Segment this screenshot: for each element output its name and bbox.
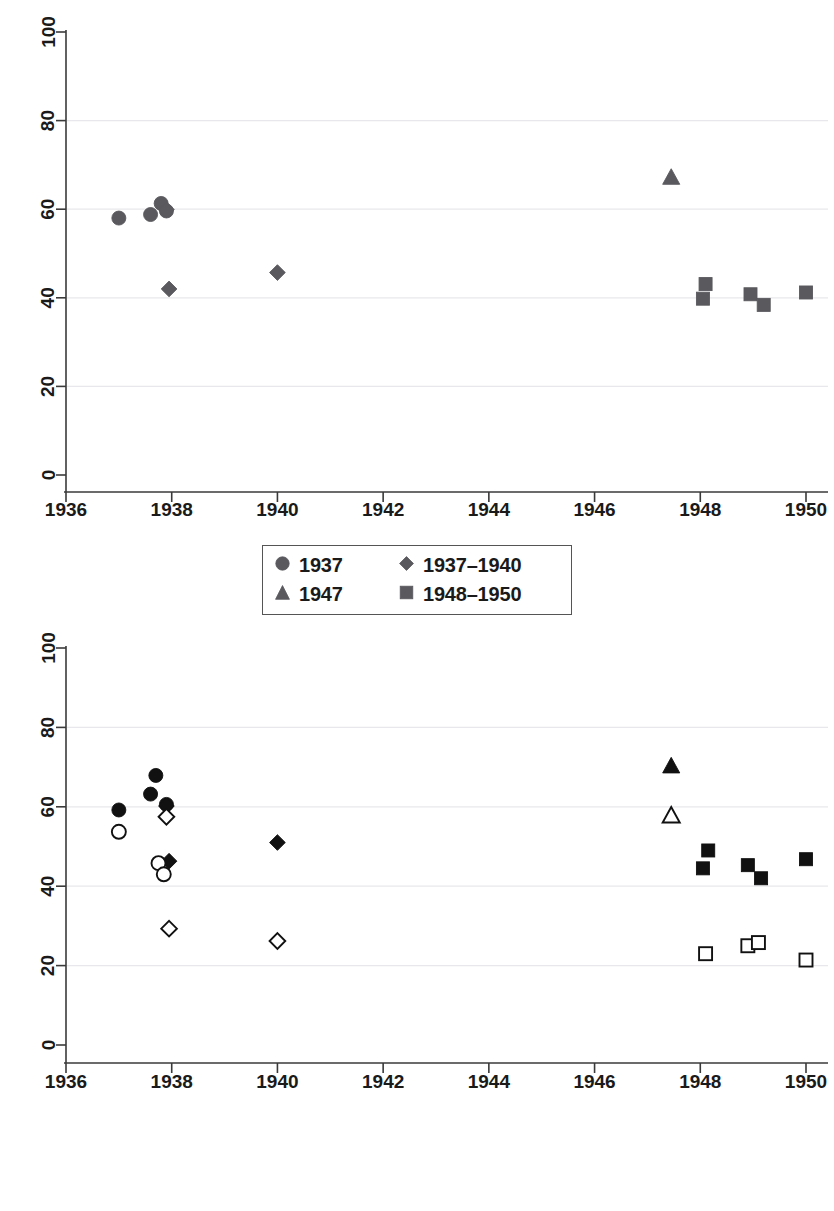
y-tick-label: 80 [38,717,59,738]
x-tick-label: 1946 [573,1071,615,1092]
legend-entry: 1947 [275,584,393,605]
data-point-marker [144,208,158,222]
x-axis: 19361938194019421944194619481950 [45,492,828,520]
data-point-marker [752,936,765,949]
data-point-marker [161,921,177,937]
legend-entry: 1948–1950 [399,584,561,605]
legend-entry-label: 1937 [299,555,343,576]
y-tick-label: 60 [38,199,59,220]
data-point-marker [663,757,680,773]
data-point-marker [800,286,813,299]
y-tick-label: 40 [38,876,59,897]
square-solid-marker-icon [399,585,414,604]
data-point-marker [744,288,757,301]
x-tick-label: 1948 [679,1071,721,1092]
data-point-marker [702,844,715,857]
series-south-1937 [112,825,171,881]
series-1947 [663,169,680,185]
diamond-solid-marker-icon [399,556,414,575]
data-point-marker [800,954,813,967]
x-tick-label: 1936 [45,499,87,520]
y-axis: 020406080100 [38,16,67,492]
data-point-marker [112,211,126,225]
data-point-marker [696,862,709,875]
y-tick-label: 60 [38,796,59,817]
x-tick-label: 1948 [679,499,721,520]
chart-panel-top: 0204060801001936193819401942194419461948… [0,0,834,620]
data-point-marker [144,787,158,801]
x-tick-label: 1950 [785,499,827,520]
y-tick-label: 20 [38,955,59,976]
data-point-marker [270,265,286,281]
data-point-marker [270,933,286,949]
data-point-marker [112,825,126,839]
x-axis: 19361938194019421944194619481950 [45,1063,828,1092]
data-point-marker [755,872,768,885]
series-1948-1950 [696,278,812,312]
data-point-marker [699,947,712,960]
data-point-marker [161,281,177,297]
x-tick-label: 1940 [256,1071,298,1092]
data-point-marker [741,859,754,872]
x-tick-label: 1950 [785,1071,827,1092]
series-non-south-1947 [663,757,680,773]
data-point-marker [112,803,126,817]
y-tick-label: 100 [38,632,59,664]
data-point-marker [663,169,680,185]
x-tick-label: 1944 [468,1071,511,1092]
x-tick-label: 1944 [468,499,511,520]
data-point-marker [800,853,813,866]
y-tick-label: 100 [38,16,59,48]
circle-solid-marker-icon [275,556,290,575]
data-point-marker [663,807,680,823]
y-axis: 020406080100 [38,632,67,1063]
data-point-marker [157,867,171,881]
chart-panel-bottom: 0204060801001936193819401942194419461948… [0,620,834,1211]
x-tick-label: 1938 [151,499,193,520]
x-tick-label: 1942 [362,1071,404,1092]
scatter-plot-top: 0204060801001936193819401942194419461948… [0,0,834,620]
y-tick-label: 20 [38,376,59,397]
figure-two-scatter-panels: 0204060801001936193819401942194419461948… [0,0,834,1211]
data-point-marker [159,809,175,825]
legend-top: 19371937–194019471948–1950 [262,545,572,615]
data-point-marker [757,298,770,311]
series-non-south-1948-1950 [696,844,812,885]
data-point-marker [696,292,709,305]
data-point-marker [699,278,712,291]
gridlines [67,121,828,387]
legend-entry-label: 1937–1940 [423,555,521,576]
series-south-1937-1940 [159,809,286,949]
data-point-marker [149,768,163,782]
y-tick-label: 0 [38,470,59,481]
y-tick-label: 80 [38,110,59,131]
legend-entry-label: 1947 [299,584,343,605]
x-tick-label: 1938 [151,1071,193,1092]
triangle-solid-marker-icon [275,585,290,604]
x-tick-label: 1936 [45,1071,87,1092]
series-south-1947 [663,807,680,823]
legend-entry-label: 1948–1950 [423,584,521,605]
x-tick-label: 1942 [362,499,404,520]
x-tick-label: 1940 [256,499,298,520]
legend-entry: 1937 [275,555,393,576]
series-south-1948-1950 [699,936,812,966]
legend-entry: 1937–1940 [399,555,561,576]
series-non-south-1937-1940 [159,798,286,869]
x-tick-label: 1946 [573,499,615,520]
y-tick-label: 0 [38,1040,59,1051]
y-tick-label: 40 [38,287,59,308]
series-1937-1940 [159,202,286,297]
scatter-plot-bottom: 0204060801001936193819401942194419461948… [0,620,834,1211]
data-point-marker [270,835,286,851]
